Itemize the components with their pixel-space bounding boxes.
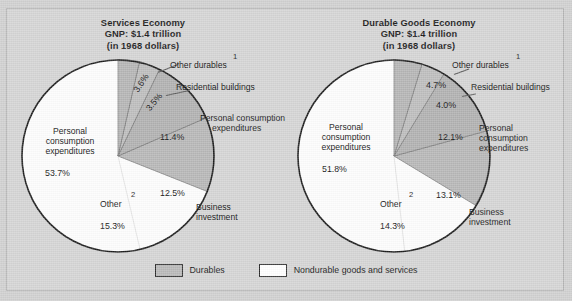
legend-item-nondurables: Nondurable goods and services [259,264,418,277]
label-business-investment-durable-l1: Business [469,207,504,217]
durables-swatch-icon [155,264,183,277]
label-pce-white-services-l2: consumption [32,136,108,146]
label-pce-white-services-l3: expenditures [32,146,108,156]
legend-item-durables: Durables [155,264,225,277]
label-pce-durable-services-l1: Personal consumption [200,113,285,123]
label-residential-buildings-durable: Residential buildings [471,82,550,92]
label-pce-white-durable-l1: Personal [308,122,384,132]
legend-label-durables: Durables [190,265,225,275]
value-pce-durable-services: 11.4% [160,132,184,142]
value-other-durable: 14.3% [380,221,405,231]
value-pce-durable-durable: 12.1% [438,132,463,142]
value-business-investment-durable: 13.1% [436,190,461,200]
chart-title-durable: Durable Goods Economy GNP: $1.4 trillion… [314,18,524,52]
label-other-services: Other [100,199,122,209]
value-business-investment-services: 12.5% [160,188,185,198]
value-pce-white-durable: 51.8% [322,164,347,174]
footnote-marker-1-durable: 1 [516,52,520,61]
footnote-marker-2-services: 2 [131,190,135,199]
label-pce-durable-durable-l2: consumption [479,133,528,143]
chart-panel-services-economy: Services Economy GNP: $1.4 trillion (in … [0,0,286,301]
label-other-durables-durable: Other durables [452,60,509,70]
label-pce-white-durable-l2: consumption [308,132,384,142]
value-pce-white-services: 53.7% [45,168,70,178]
footnote-marker-1-services: 1 [233,52,237,61]
label-pce-durable-durable-l3: expenditures [479,143,528,153]
chart-panel-durable-goods-economy: Durable Goods Economy GNP: $1.4 trillion… [286,0,572,301]
value-other-services: 15.3% [100,221,125,231]
label-pce-durable-services-l2: expenditures [212,123,261,133]
label-other-durables-services: Other durables [170,60,227,70]
label-other-durable: Other [380,199,402,209]
footnote-marker-2-durable: 2 [409,190,413,199]
chart-legend: Durables Nondurable goods and services [0,258,572,282]
label-pce-white-services-l1: Personal [32,126,108,136]
value-other-durables-durable: 4.7% [426,80,446,90]
chart-title-services: Services Economy GNP: $1.4 trillion (in … [38,18,248,52]
label-business-investment-services-l2: investment [196,212,238,222]
chart-title-durable-line3: (in 1968 dollars) [314,41,524,52]
chart-title-durable-line2: GNP: $1.4 trillion [314,29,524,40]
label-pce-white-durable-l3: expenditures [308,142,384,152]
nondurables-swatch-icon [259,264,287,277]
chart-title-line2: GNP: $1.4 trillion [38,29,248,40]
figure-canvas: Services Economy GNP: $1.4 trillion (in … [0,0,572,301]
chart-title-line1: Services Economy [38,18,248,29]
chart-title-durable-line1: Durable Goods Economy [314,18,524,29]
label-business-investment-durable-l2: investment [469,217,511,227]
legend-label-nondurables: Nondurable goods and services [294,265,418,275]
chart-title-line3: (in 1968 dollars) [38,41,248,52]
label-residential-buildings-services: Residential buildings [176,82,255,92]
label-business-investment-services-l1: Business [196,202,231,212]
label-pce-durable-durable-l1: Personal [479,123,513,133]
value-residential-buildings-durable: 4.0% [436,100,456,110]
